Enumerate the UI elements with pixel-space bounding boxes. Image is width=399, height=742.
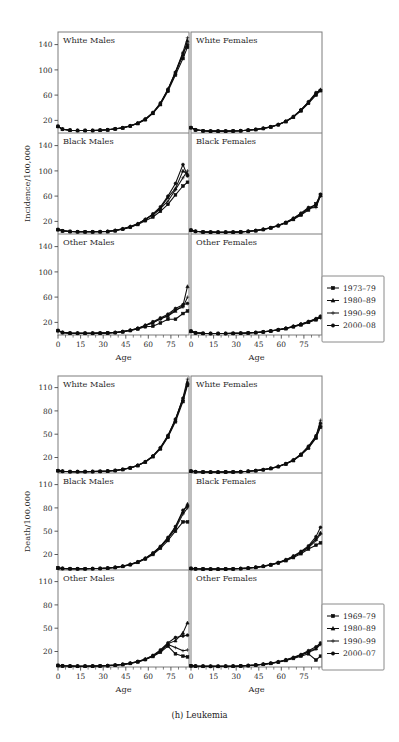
data-point-marker — [167, 536, 170, 539]
data-point-marker — [319, 541, 322, 544]
data-point-marker — [84, 129, 87, 132]
data-point-marker — [84, 332, 87, 335]
data-point-marker — [99, 129, 102, 132]
data-point-marker — [262, 468, 265, 471]
data-point-marker — [129, 124, 132, 127]
data-point-marker — [209, 231, 212, 234]
data-point-marker — [315, 544, 318, 547]
data-point-marker — [159, 317, 162, 320]
data-point-marker — [69, 332, 72, 335]
data-point-marker — [106, 470, 109, 473]
data-point-marker — [114, 664, 117, 667]
data-point-marker — [106, 128, 109, 131]
data-point-marker — [151, 212, 154, 215]
data-point-marker — [247, 230, 250, 233]
data-point-marker — [174, 71, 177, 74]
data-point-marker — [315, 645, 318, 648]
data-point-marker — [239, 332, 242, 335]
data-point-marker — [182, 521, 185, 524]
data-point-marker — [57, 228, 60, 231]
data-point-marker — [319, 315, 322, 318]
data-point-marker — [224, 568, 227, 571]
data-point-marker — [202, 231, 205, 234]
data-point-marker — [91, 129, 94, 132]
data-point-marker — [190, 126, 193, 129]
panel-title: White Males — [63, 379, 115, 389]
data-point-marker — [194, 230, 197, 233]
data-point-marker — [182, 163, 185, 166]
data-point-marker — [136, 660, 139, 663]
legend-label: 2000–08 — [343, 321, 376, 330]
data-point-marker — [254, 331, 257, 334]
panel-title: Black Females — [196, 136, 256, 146]
data-point-marker — [167, 88, 170, 91]
data-point-marker — [129, 466, 132, 469]
data-point-marker — [284, 221, 287, 224]
data-point-marker — [254, 229, 257, 232]
data-point-marker — [262, 565, 265, 568]
data-point-marker — [262, 663, 265, 666]
data-point-marker — [254, 663, 257, 666]
data-point-marker — [181, 649, 185, 653]
data-point-marker — [194, 567, 197, 570]
incidence-svg: 2060100140206010014020601001400153045607… — [0, 0, 399, 368]
data-point-marker — [277, 123, 280, 126]
data-point-marker — [57, 567, 60, 570]
data-point-marker — [159, 205, 162, 208]
data-point-marker — [300, 108, 303, 111]
y-axis-title: Death/100,000 — [22, 491, 32, 552]
data-point-marker — [167, 313, 170, 316]
data-point-marker — [277, 465, 280, 468]
y-tick-label: 20 — [43, 116, 53, 125]
data-point-marker — [284, 558, 287, 561]
legend-label: 1973–79 — [343, 284, 376, 293]
data-point-marker — [284, 120, 287, 123]
series-line — [191, 426, 320, 472]
data-point-marker — [121, 330, 124, 333]
data-point-marker — [239, 129, 242, 132]
x-axis-title: Age — [248, 684, 265, 694]
data-point-marker — [269, 125, 272, 128]
series-line — [58, 385, 187, 472]
x-tick-label: 0 — [56, 672, 61, 681]
data-point-marker — [277, 660, 280, 663]
data-point-marker — [121, 227, 124, 230]
x-tick-label: 15 — [76, 672, 86, 681]
y-tick-label: 140 — [38, 242, 52, 251]
data-point-marker — [186, 302, 189, 305]
data-point-marker — [269, 467, 272, 470]
series-line — [58, 286, 187, 333]
data-point-marker — [224, 665, 227, 668]
data-point-marker — [151, 552, 154, 555]
data-point-marker — [202, 471, 205, 474]
data-point-marker — [129, 662, 132, 665]
data-point-marker — [106, 230, 109, 233]
legend-marker-icon — [331, 614, 334, 617]
data-point-marker — [84, 230, 87, 233]
data-point-marker — [190, 664, 193, 667]
x-tick-label: 15 — [76, 340, 86, 349]
data-point-marker — [61, 128, 64, 131]
data-point-marker — [186, 43, 189, 46]
series-line — [58, 635, 187, 666]
x-axis-title: Age — [248, 352, 265, 362]
y-tick-label: 50 — [43, 430, 53, 439]
series-line — [191, 527, 320, 569]
data-point-marker — [106, 332, 109, 335]
data-point-marker — [232, 665, 235, 668]
leukemia-figure: 2060100140206010014020601001400153045607… — [0, 0, 399, 742]
data-point-marker — [114, 566, 117, 569]
legend-marker-icon — [331, 652, 334, 655]
data-point-marker — [174, 652, 177, 655]
data-point-marker — [186, 310, 189, 313]
data-point-marker — [224, 471, 227, 474]
data-point-marker — [91, 665, 94, 668]
y-tick-label: 80 — [43, 504, 53, 513]
x-tick-label: 15 — [209, 672, 219, 681]
data-point-marker — [186, 181, 189, 184]
legend-label: 1990–99 — [343, 637, 376, 646]
data-point-marker — [182, 655, 185, 658]
data-point-marker — [76, 470, 79, 473]
data-point-marker — [61, 664, 64, 667]
data-point-marker — [114, 469, 117, 472]
